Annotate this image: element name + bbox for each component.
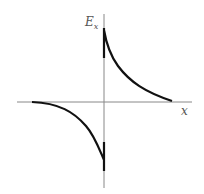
field-plot: Ex x xyxy=(0,0,204,194)
x-axis-label: x xyxy=(181,104,188,118)
right-branch-curve xyxy=(104,28,172,101)
y-axis-label: Ex xyxy=(84,15,99,31)
left-branch-curve xyxy=(32,102,104,171)
